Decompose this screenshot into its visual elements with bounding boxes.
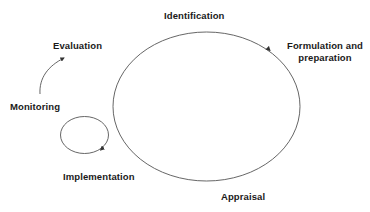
stage-formulation-line1: Formulation and xyxy=(286,40,364,52)
major-cycle-ellipse xyxy=(113,32,300,181)
monitoring-to-evaluation-arrow-icon xyxy=(40,58,64,94)
stage-implementation: Implementation xyxy=(63,171,135,183)
minor-cycle-ellipse xyxy=(61,117,109,154)
stage-identification: Identification xyxy=(164,10,225,22)
stage-evaluation: Evaluation xyxy=(53,40,102,52)
stage-formulation-preparation: Formulation and preparation xyxy=(286,40,364,63)
stage-formulation-line2: preparation xyxy=(286,52,364,64)
stage-appraisal: Appraisal xyxy=(221,191,265,203)
project-cycle-diagram: Identification Formulation and preparati… xyxy=(0,0,370,212)
stage-monitoring: Monitoring xyxy=(10,101,60,113)
